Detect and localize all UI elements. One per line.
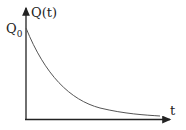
decay-curve	[26, 28, 160, 116]
y-axis-label: Q(t)	[31, 6, 57, 19]
x-axis-label: t	[170, 104, 175, 117]
decay-diagram: Q(t) Q0 t	[0, 0, 186, 130]
initial-value-label: Q0	[6, 22, 22, 39]
axes-and-curve	[0, 0, 186, 130]
